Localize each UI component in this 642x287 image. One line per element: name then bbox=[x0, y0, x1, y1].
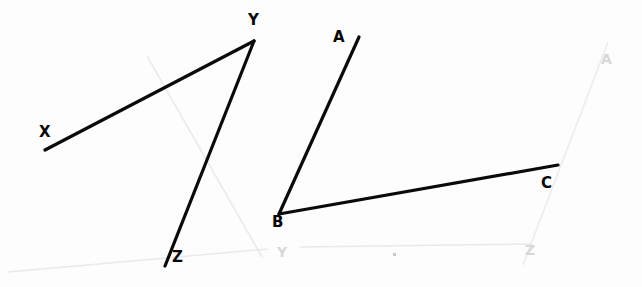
ghost-baseline-right-line bbox=[300, 244, 532, 247]
ghost-line-group bbox=[8, 42, 608, 272]
ray-ba-line bbox=[279, 37, 359, 214]
ray-yz-line bbox=[165, 41, 254, 266]
ray-bc-line bbox=[279, 165, 558, 214]
ghost-letter-z-label: Z bbox=[525, 243, 535, 257]
point-label-x: X bbox=[39, 125, 51, 140]
ghost-letter-a-label: A bbox=[601, 52, 612, 66]
angle-abc-group bbox=[279, 37, 558, 214]
paper-speck bbox=[393, 253, 396, 256]
point-label-b: B bbox=[272, 215, 283, 230]
angle-figure: A Y Z X Y Z A B C bbox=[0, 0, 642, 287]
point-label-c: C bbox=[541, 176, 552, 191]
point-label-a: A bbox=[333, 30, 345, 45]
angle-xyz-group bbox=[45, 41, 254, 266]
ghost-letter-y-label: Y bbox=[277, 245, 287, 259]
ghost-diagonal-right-line bbox=[523, 42, 608, 265]
figure-canvas bbox=[0, 0, 642, 287]
ghost-baseline-left-line bbox=[8, 249, 268, 272]
point-label-y: Y bbox=[248, 13, 259, 28]
ray-yx-line bbox=[45, 41, 254, 150]
point-label-z: Z bbox=[172, 250, 183, 265]
